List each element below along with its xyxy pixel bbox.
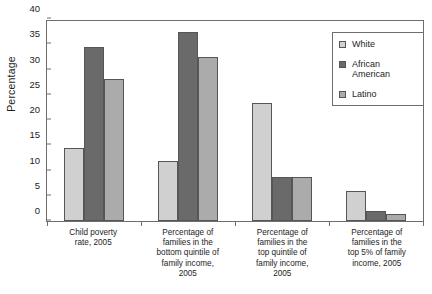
- legend-label: White: [352, 39, 375, 50]
- x-axis-label-line: family income,: [238, 259, 327, 269]
- x-axis-category-label: Percentage offamilies in thetop 5% of fa…: [330, 228, 425, 279]
- legend-label-line: Latino: [352, 89, 377, 100]
- x-axis-label-line: families in the: [144, 238, 233, 248]
- x-axis-label-line: 2005: [144, 269, 233, 279]
- x-axis-category-label: Child povertyrate, 2005: [46, 228, 141, 279]
- y-axis-tick-label: 5: [35, 179, 47, 190]
- y-axis-tick-label: 10: [29, 154, 47, 165]
- legend-swatch-icon: [339, 41, 346, 48]
- y-axis-tick-mark: [47, 18, 51, 19]
- x-axis-labels: Child povertyrate, 2005Percentage offami…: [46, 228, 424, 279]
- legend-label-line: African: [352, 59, 390, 70]
- legend-label-line: White: [352, 39, 375, 50]
- bar-group: [235, 21, 329, 221]
- chart-legend: WhiteAfricanAmericanLatino: [332, 32, 424, 106]
- y-axis-tick-label: 40: [29, 3, 47, 14]
- legend-swatch-icon: [339, 91, 346, 98]
- legend-item-african-american: AfricanAmerican: [339, 59, 415, 80]
- bar: [158, 161, 178, 221]
- bar-group: [47, 21, 141, 221]
- y-axis-tick-label: 0: [35, 205, 47, 216]
- x-axis-tick-mark: [47, 221, 48, 226]
- bar-group: [141, 21, 235, 221]
- bar: [292, 177, 312, 221]
- bar: [84, 47, 104, 221]
- y-axis-tick-label: 20: [29, 104, 47, 115]
- x-axis-tick-mark: [141, 221, 142, 226]
- x-axis-label-line: family income,: [144, 259, 233, 269]
- x-axis-tick-mark: [329, 221, 330, 226]
- x-axis-label-line: income, 2005: [333, 259, 422, 269]
- x-axis-label-line: Percentage of: [144, 228, 233, 238]
- x-axis-label-line: Child poverty: [49, 228, 138, 238]
- y-axis-tick-label: 35: [29, 28, 47, 39]
- y-axis-tick-label: 25: [29, 78, 47, 89]
- x-axis-label-line: Percentage of: [238, 228, 327, 238]
- bar-chart: Percentage 0510152025303540 Child povert…: [0, 0, 432, 294]
- bar: [252, 103, 272, 221]
- bar: [178, 32, 198, 221]
- legend-label-line: American: [352, 69, 390, 80]
- bar: [272, 177, 292, 221]
- bar: [64, 148, 84, 221]
- bar: [386, 214, 406, 221]
- y-axis-tick-label: 15: [29, 129, 47, 140]
- y-axis-title: Percentage: [5, 29, 17, 139]
- x-axis-label-line: bottom quintile of: [144, 248, 233, 258]
- bar: [366, 211, 386, 221]
- legend-label: AfricanAmerican: [352, 59, 390, 80]
- bar: [198, 57, 218, 221]
- bar: [104, 79, 124, 221]
- legend-label: Latino: [352, 89, 377, 100]
- y-axis-tick-label: 30: [29, 53, 47, 64]
- x-axis-category-label: Percentage offamilies in thetop quintile…: [235, 228, 330, 279]
- x-axis-tick-mark: [423, 221, 424, 226]
- legend-item-white: White: [339, 39, 415, 50]
- bar: [346, 191, 366, 221]
- x-axis-label-line: rate, 2005: [49, 238, 138, 248]
- x-axis-label-line: top 5% of family: [333, 248, 422, 258]
- x-axis-category-label: Percentage offamilies in thebottom quint…: [141, 228, 236, 279]
- x-axis-label-line: 2005: [238, 269, 327, 279]
- x-axis-label-line: Percentage of: [333, 228, 422, 238]
- x-axis-label-line: families in the: [238, 238, 327, 248]
- x-axis-label-line: top quintile of: [238, 248, 327, 258]
- x-axis-tick-mark: [235, 221, 236, 226]
- x-axis-label-line: families in the: [333, 238, 422, 248]
- legend-item-latino: Latino: [339, 89, 415, 100]
- legend-swatch-icon: [339, 61, 346, 68]
